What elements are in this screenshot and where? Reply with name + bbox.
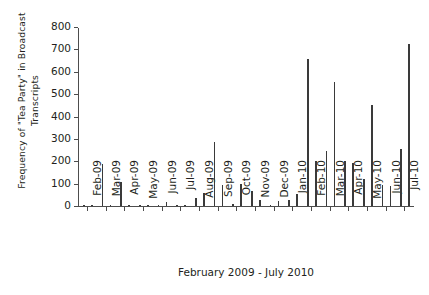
bar: [334, 82, 336, 206]
bar: [240, 184, 242, 206]
y-tick-mark: [74, 117, 78, 118]
bar: [120, 182, 122, 206]
x-tick-mark: [218, 207, 219, 211]
bar: [147, 205, 149, 206]
x-tick-mark: [386, 207, 387, 211]
x-tick-label: May-09: [147, 160, 159, 216]
bar: [371, 105, 373, 206]
x-tick-mark: [87, 207, 88, 211]
x-tick-label: Nov-09: [259, 160, 271, 216]
bar: [102, 164, 104, 207]
x-tick-mark: [199, 207, 200, 211]
y-tick-mark: [74, 161, 78, 162]
y-tick-mark: [74, 206, 78, 207]
y-tick-label: 300: [51, 132, 71, 144]
bar: [315, 161, 317, 206]
bar: [307, 59, 309, 206]
chart-figure: Frequency of "Tea Party" in Broadcast Tr…: [0, 0, 429, 295]
bar: [176, 205, 178, 206]
x-tick-mark: [236, 207, 237, 211]
bar: [382, 185, 384, 206]
bar: [296, 194, 298, 206]
bar: [166, 202, 168, 206]
y-tick-mark: [74, 49, 78, 50]
x-tick-mark: [106, 207, 107, 211]
y-tick: 300: [78, 139, 82, 140]
plot-area: 0100200300400500600700800 Feb-09Mar-09Ap…: [78, 28, 414, 207]
x-tick-label: Jul-09: [184, 160, 196, 216]
y-tick-label: 100: [51, 177, 71, 189]
y-tick: 400: [78, 117, 82, 118]
y-axis-label: Frequency of "Tea Party" in Broadcast Tr…: [16, 1, 41, 201]
y-tick-label: 400: [51, 110, 71, 122]
x-tick-mark: [274, 207, 275, 211]
y-tick-label: 0: [64, 199, 71, 211]
bar: [128, 205, 130, 206]
bar: [222, 185, 224, 206]
y-tick-label: 200: [51, 154, 71, 166]
y-tick-label: 700: [51, 42, 71, 54]
x-tick-mark: [143, 207, 144, 211]
y-tick: 800: [78, 27, 82, 28]
bar: [400, 149, 402, 206]
y-tick: 0: [78, 206, 82, 207]
y-tick: 500: [78, 94, 82, 95]
bar: [214, 142, 216, 206]
y-tick-mark: [74, 27, 78, 28]
bar: [184, 205, 186, 206]
bar: [352, 163, 354, 206]
x-tick-label: Apr-09: [128, 160, 140, 216]
y-axis-label-wrap: Frequency of "Tea Party" in Broadcast Tr…: [0, 0, 40, 215]
bar: [270, 205, 272, 206]
y-tick-mark: [74, 139, 78, 140]
x-tick-label: Jul-10: [408, 160, 420, 216]
y-tick-label: 600: [51, 65, 71, 77]
bar: [251, 191, 253, 206]
bar: [288, 200, 290, 206]
y-tick-mark: [74, 184, 78, 185]
y-tick-label: 500: [51, 87, 71, 99]
bar: [408, 44, 410, 206]
x-tick-mark: [162, 207, 163, 211]
bar: [83, 205, 85, 206]
y-tick: 600: [78, 72, 82, 73]
x-axis-label: February 2009 - July 2010: [78, 266, 414, 278]
y-tick: 200: [78, 161, 82, 162]
y-tick-mark: [74, 72, 78, 73]
bar: [363, 179, 365, 206]
x-tick-label: Dec-09: [278, 160, 290, 216]
x-tick-mark: [255, 207, 256, 211]
bar: [139, 205, 141, 206]
x-tick-label: Oct-09: [240, 160, 252, 216]
bar: [344, 161, 346, 206]
y-tick-mark: [74, 94, 78, 95]
y-tick: 700: [78, 49, 82, 50]
bar: [326, 151, 328, 206]
bar: [232, 204, 234, 206]
bar: [91, 205, 93, 206]
bar: [203, 193, 205, 206]
bar: [278, 201, 280, 206]
y-tick: 100: [78, 184, 82, 185]
x-tick-mark: [180, 207, 181, 211]
bar: [195, 198, 197, 207]
y-tick-label: 800: [51, 20, 71, 32]
bar: [110, 205, 112, 206]
x-tick-mark: [367, 207, 368, 211]
x-tick-mark: [311, 207, 312, 211]
y-axis-line: [78, 28, 79, 207]
x-tick-mark: [292, 207, 293, 211]
bar: [259, 200, 261, 206]
x-tick-label: Sep-09: [222, 160, 234, 216]
bar: [158, 205, 160, 206]
x-tick-mark: [124, 207, 125, 211]
x-tick-mark: [330, 207, 331, 211]
bar: [390, 186, 392, 206]
x-tick-mark: [348, 207, 349, 211]
x-tick-label: Jun-09: [166, 160, 178, 216]
x-tick-mark: [404, 207, 405, 211]
